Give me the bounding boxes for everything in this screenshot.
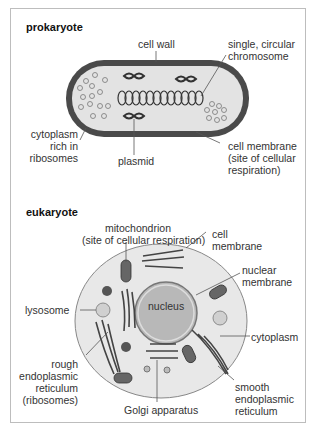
lysosome-icon xyxy=(96,303,110,317)
prokaryote-cell xyxy=(66,51,249,155)
label-rough-er: rough endoplasmic reticulum (ribosomes) xyxy=(12,358,78,406)
label-eukaryote-cell-membrane: cell membrane xyxy=(212,228,262,252)
label-cytoplasm-ribosomes: cytoplasm rich in ribosomes xyxy=(22,128,78,164)
label-cell-membrane: cell membrane (site of cellular respirat… xyxy=(228,140,297,176)
label-golgi-apparatus: Golgi apparatus xyxy=(124,404,198,416)
eukaryote-title: eukaryote xyxy=(26,206,78,218)
label-cytoplasm: cytoplasm xyxy=(251,331,298,343)
label-mitochondrion: mitochondrion (site of cellular respirat… xyxy=(82,222,194,246)
eukaryote-cell xyxy=(75,232,250,402)
label-nucleus: nucleus xyxy=(148,300,184,312)
prokaryote-title: prokaryote xyxy=(26,21,83,33)
label-lysosome: lysosome xyxy=(25,304,69,316)
label-nuclear-membrane: nuclear membrane xyxy=(242,264,292,288)
label-chromosome: single, circular chromosome xyxy=(228,38,295,62)
label-plasmid: plasmid xyxy=(118,155,154,167)
label-smooth-er: smooth endoplasmic reticulum xyxy=(235,381,294,417)
label-cell-wall: cell wall xyxy=(138,38,175,50)
